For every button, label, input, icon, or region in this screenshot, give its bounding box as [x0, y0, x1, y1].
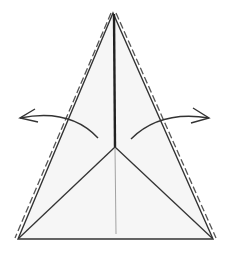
- center-fold-line: [114, 14, 115, 147]
- origami-diagram: [0, 0, 229, 258]
- right-arrowhead-icon: [191, 108, 209, 123]
